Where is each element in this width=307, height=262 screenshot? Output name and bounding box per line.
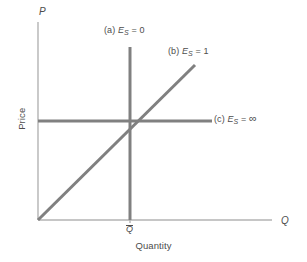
curve-label-c-value: ∞ [249, 112, 257, 124]
y-axis-title: Price [17, 89, 27, 149]
plot-canvas [0, 0, 307, 262]
curve-label-b-tag: (b) [168, 46, 179, 56]
qbar-letter: Q [126, 225, 133, 234]
curve-label-b-symbol: ES [182, 46, 193, 56]
x-axis-end-label: Q [281, 216, 289, 226]
qbar-overbar [126, 225, 133, 226]
y-axis-end-label: P [39, 7, 46, 17]
supply-elasticity-figure: (a) ES = 0 (b) ES = 1 (c) ES = ∞ P Q Q Q… [0, 0, 307, 262]
x-axis-tick-label-qbar: Q [126, 224, 133, 234]
curve-label-a-equals: = [131, 25, 136, 35]
x-axis-title: Quantity [0, 241, 307, 251]
curve-label-b: (b) ES = 1 [168, 47, 209, 57]
curve-label-a-value: 0 [139, 25, 144, 35]
curve-label-c-symbol: ES [227, 114, 238, 124]
supply-curve-b-unit-elastic [38, 65, 195, 220]
curve-label-c-tag: (c) [214, 114, 225, 124]
curve-label-a: (a) ES = 0 [104, 26, 145, 36]
curve-label-c: (c) ES = ∞ [214, 113, 257, 125]
curve-label-b-value: 1 [203, 46, 208, 56]
curve-label-a-symbol: ES [118, 25, 129, 35]
curve-label-c-equals: = [241, 114, 246, 124]
curve-label-b-equals: = [195, 46, 200, 56]
curve-label-a-tag: (a) [104, 25, 115, 35]
